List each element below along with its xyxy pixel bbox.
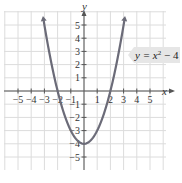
equation-label: y = x2 − 4 (128, 47, 180, 63)
x-axis-label: x (161, 85, 167, 97)
y-tick-label: −5 (69, 152, 80, 163)
axes (4, 10, 175, 170)
parabola-chart: −5−4−3−2−11234554321−1−2−3−4−5 y = x2 − … (0, 0, 182, 183)
y-tick-label: −1 (69, 99, 80, 110)
equation-text: y = x2 − 4 (134, 49, 179, 61)
y-tick-label: 4 (75, 33, 80, 44)
x-tick-label: −5 (13, 94, 24, 105)
y-tick-label: 3 (75, 46, 80, 57)
x-tick-label: −4 (26, 94, 37, 105)
y-tick-label: 2 (75, 59, 80, 70)
y-tick-label: −2 (69, 112, 80, 123)
y-axis-label: y (81, 0, 87, 12)
x-tick-label: 3 (121, 94, 126, 105)
x-tick-label: 1 (95, 94, 100, 105)
x-tick-label: −3 (39, 94, 50, 105)
x-tick-label: 4 (134, 94, 139, 105)
y-tick-label: 1 (75, 72, 80, 83)
y-tick-label: 5 (75, 20, 80, 31)
x-tick-label: 5 (148, 94, 153, 105)
